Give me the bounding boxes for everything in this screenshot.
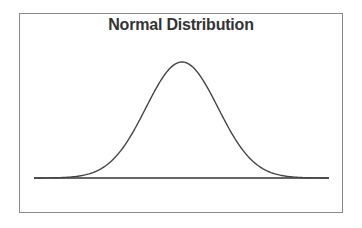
normal-curve — [34, 62, 329, 178]
plot-area — [0, 0, 362, 228]
